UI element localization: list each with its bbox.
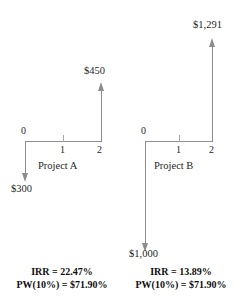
- project-b-summary: IRR = 13.89% PW(10%) = $71.90%: [122, 265, 240, 291]
- project-a-caption: Project A: [38, 160, 77, 172]
- project-a-inflow-arrowhead-icon: [98, 82, 104, 91]
- project-a-summary: IRR = 22.47% PW(10%) = $71.90%: [3, 265, 121, 291]
- project-b-outflow-amount: $1,000: [129, 248, 158, 260]
- cash-flow-diagram-figure: 0 1 2 $450 $300 Project A 0 1 2 $1,291 $…: [0, 0, 243, 303]
- project-b-inflow-amount: $1,291: [193, 19, 222, 31]
- project-a-outflow-stem: [25, 141, 26, 174]
- project-b-caption: Project B: [154, 160, 193, 172]
- project-a-pw-text: PW(10%) = $71.90%: [3, 278, 121, 291]
- project-b-tick-1: [179, 135, 180, 142]
- project-b-irr-text: IRR = 13.89%: [122, 265, 240, 278]
- project-b-period-label-0: 0: [141, 125, 146, 136]
- project-b-inflow-stem: [212, 46, 213, 142]
- project-a-outflow-amount: $300: [11, 183, 32, 195]
- project-b-diagram: 0 1 2 $1,291 $1,000 Project B: [120, 0, 243, 265]
- project-a-irr-text: IRR = 22.47%: [3, 265, 121, 278]
- project-b-outflow-stem: [145, 141, 146, 244]
- project-b-inflow-arrowhead-icon: [209, 38, 215, 47]
- project-a-tick-1: [63, 135, 64, 142]
- project-b-period-label-1: 1: [176, 144, 181, 155]
- project-b-pw-text: PW(10%) = $71.90%: [122, 278, 240, 291]
- project-a-period-label-2: 2: [97, 144, 102, 155]
- project-b-period-label-2: 2: [209, 144, 214, 155]
- project-a-inflow-amount: $450: [84, 65, 105, 77]
- project-a-period-label-1: 1: [60, 144, 65, 155]
- project-a-inflow-stem: [101, 90, 102, 142]
- project-a-period-label-0: 0: [21, 125, 26, 136]
- project-a-outflow-arrowhead-icon: [22, 173, 28, 182]
- project-a-diagram: 0 1 2 $450 $300 Project A: [0, 0, 120, 260]
